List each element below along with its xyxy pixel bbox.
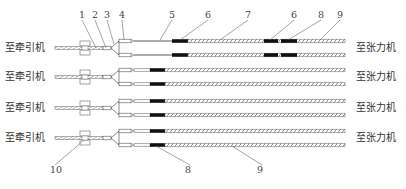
conductor	[165, 113, 345, 117]
connector	[119, 68, 131, 72]
pulling-rope	[55, 107, 103, 110]
left-label-to-puller: 至牵引机	[5, 132, 45, 144]
splitter	[111, 131, 119, 145]
connector	[119, 143, 131, 147]
sleeve	[264, 53, 278, 57]
sleeve	[150, 143, 165, 147]
row-3	[55, 99, 345, 117]
roller-block	[80, 131, 90, 136]
row-4	[55, 129, 345, 147]
conductor	[165, 68, 345, 72]
connector	[119, 53, 131, 57]
right-label-to-tensioner: 至张力机	[356, 102, 396, 114]
conductor	[165, 129, 345, 133]
sleeve	[172, 53, 188, 57]
roller-block	[80, 70, 90, 75]
sleeve	[281, 53, 297, 57]
swivel	[103, 46, 111, 50]
left-label-to-puller: 至牵引机	[5, 102, 45, 114]
sleeve	[150, 68, 165, 72]
callout-6: 6	[291, 10, 297, 20]
right-label-to-tensioner: 至张力机	[356, 132, 396, 144]
swivel	[103, 106, 111, 110]
conductor	[165, 99, 345, 103]
callout-3: 3	[104, 10, 110, 20]
splitter	[111, 101, 119, 115]
connector	[119, 129, 131, 133]
connector	[119, 99, 131, 103]
sleeve	[150, 99, 165, 103]
sleeve	[150, 82, 165, 86]
roller-block	[80, 101, 90, 106]
callout-5: 5	[169, 10, 175, 20]
pulling-rope	[55, 137, 103, 140]
sleeve	[150, 113, 165, 117]
splitter	[111, 41, 119, 55]
diagram-canvas: 至牵引机至张力机至牵引机至张力机至牵引机至张力机至牵引机至张力机12345676…	[0, 0, 406, 189]
callout-4: 4	[119, 10, 125, 20]
connector	[119, 113, 131, 117]
sleeve	[264, 39, 278, 43]
callout-2: 2	[92, 10, 98, 20]
connector	[119, 82, 131, 86]
row-2	[55, 68, 345, 86]
splitter	[111, 70, 119, 84]
swivel	[103, 75, 111, 79]
row-1	[55, 39, 345, 57]
conductor	[165, 82, 345, 86]
left-label-to-puller: 至牵引机	[5, 71, 45, 83]
swivel	[103, 136, 111, 140]
sleeve	[150, 129, 165, 133]
callout-8: 8	[185, 165, 191, 175]
pulling-rope	[55, 76, 103, 79]
roller-block	[80, 41, 90, 46]
left-label-to-puller: 至牵引机	[5, 42, 45, 54]
connector	[119, 39, 131, 43]
conductor	[165, 143, 345, 147]
callout-6: 6	[205, 10, 211, 20]
callout-10: 10	[50, 165, 62, 175]
right-label-to-tensioner: 至张力机	[356, 42, 396, 54]
callout-7: 7	[245, 10, 251, 20]
right-label-to-tensioner: 至张力机	[356, 71, 396, 83]
callout-9: 9	[337, 10, 343, 20]
callout-1: 1	[79, 10, 85, 20]
stringing-diagram	[0, 0, 406, 189]
callout-8: 8	[318, 10, 324, 20]
callout-9: 9	[257, 165, 263, 175]
